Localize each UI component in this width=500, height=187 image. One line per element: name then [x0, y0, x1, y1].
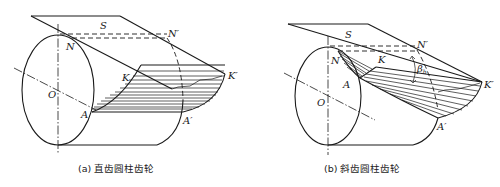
caption-a: (a) 直齿圆柱齿轮: [78, 163, 154, 174]
cylinder-far-end: [413, 118, 438, 145]
label-O: O: [317, 97, 325, 108]
label-N-prime: N′: [416, 39, 429, 50]
label-O: O: [48, 89, 56, 100]
panel-b-helical-gear: S N N′ K K′ O A A′ βb (b) 斜齿圆柱齿轮: [284, 24, 494, 174]
helix-bottom-AA-prime: [360, 78, 438, 118]
label-S: S: [345, 29, 352, 40]
involute-curve-AK: [92, 65, 141, 112]
label-N-prime: N′: [167, 28, 180, 39]
involute-curve-A-prime-K-prime: [438, 82, 482, 118]
label-A: A: [342, 79, 350, 90]
label-N: N: [65, 41, 76, 52]
label-A: A: [80, 109, 88, 120]
label-K-prime: K′: [483, 79, 494, 90]
gear-diagram: S N N′ K K′ O A A′ (a) 直齿圆柱齿轮: [0, 0, 500, 187]
caption-b: (b) 斜齿圆柱齿轮: [324, 163, 400, 174]
label-N: N: [330, 55, 341, 66]
involute-hatching: [364, 71, 480, 116]
label-K: K: [121, 72, 130, 83]
cylinder-far-end-hidden: [167, 38, 183, 100]
label-S: S: [100, 20, 107, 31]
plane-contact-line: [172, 76, 222, 89]
label-A-prime: A′: [182, 115, 193, 126]
label-K-prime: K′: [227, 70, 238, 81]
panel-a-spur-gear: S N N′ K K′ O A A′ (a) 直齿圆柱齿轮: [14, 16, 238, 174]
label-K: K: [377, 54, 386, 65]
label-A-prime: A′: [436, 121, 447, 132]
